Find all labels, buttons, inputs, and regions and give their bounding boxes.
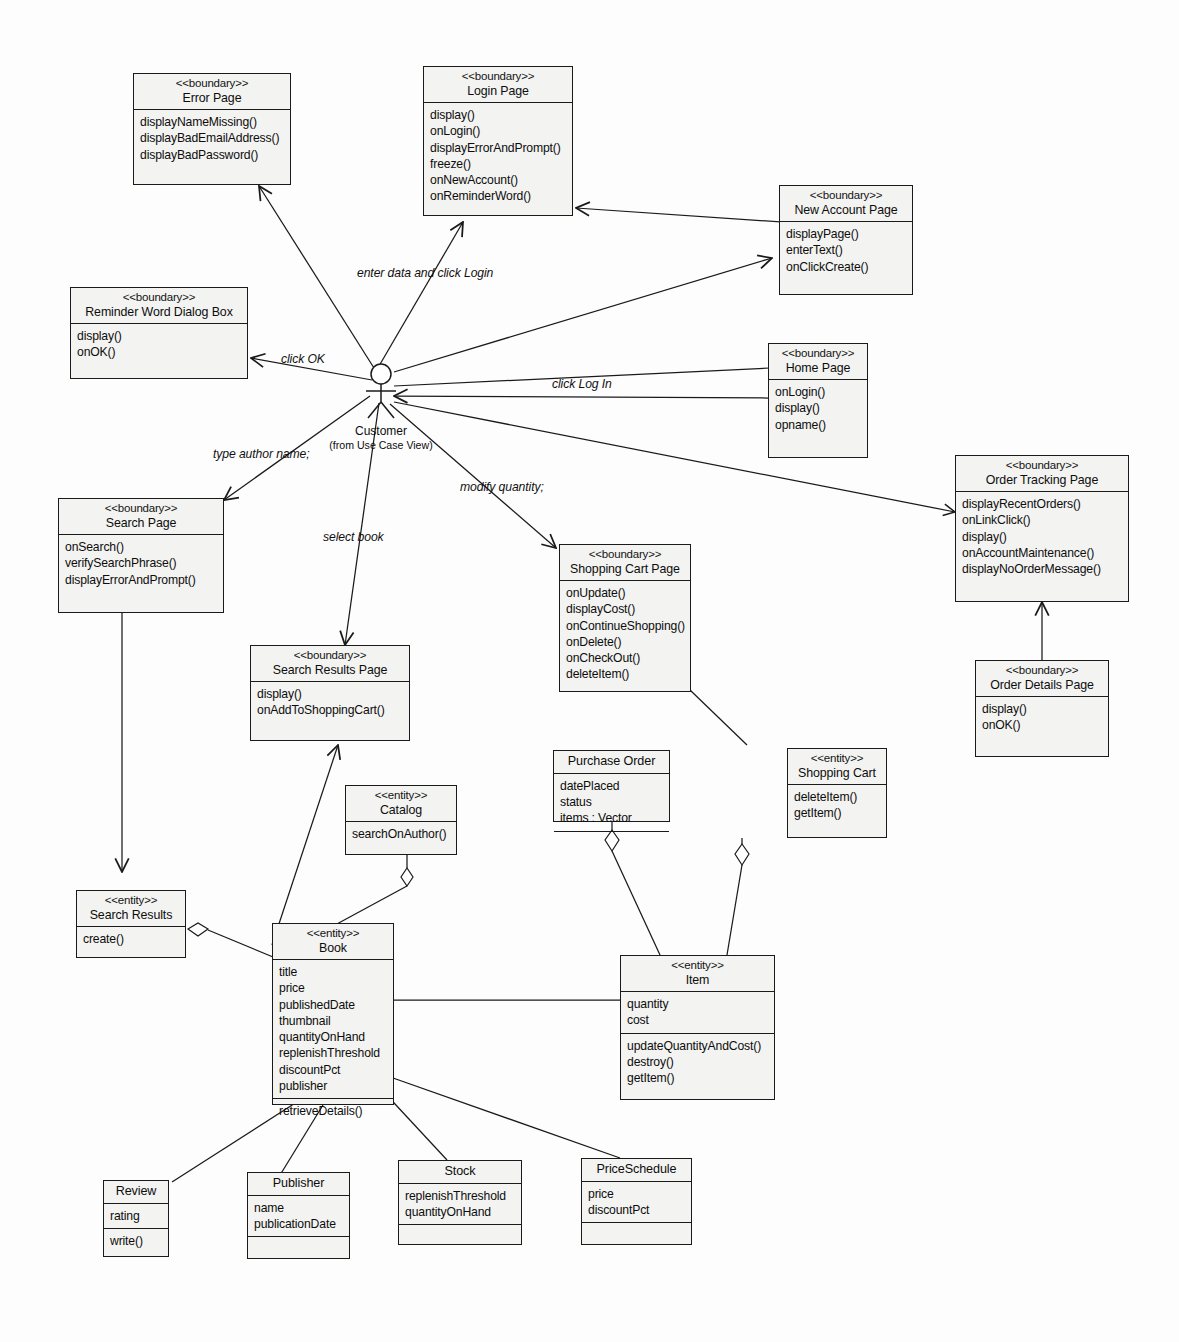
stereotype-label: <<boundary>> — [564, 548, 686, 562]
attribute: publicationDate — [254, 1216, 344, 1232]
operation: display() — [77, 328, 242, 344]
class-book[interactable]: <<entity>> Book title price publishedDat… — [272, 923, 394, 1105]
class-item[interactable]: <<entity>> Item quantity cost updateQuan… — [620, 955, 775, 1100]
class-header: <<entity>> Shopping Cart — [788, 749, 886, 785]
attribute: discountPct — [279, 1062, 388, 1078]
operations-compartment: onUpdate() displayCost() onContinueShopp… — [560, 581, 690, 691]
class-header: <<boundary>> Error Page — [134, 74, 290, 110]
operations-compartment — [582, 1223, 691, 1245]
class-search-results-page[interactable]: <<boundary>> Search Results Page display… — [250, 645, 410, 741]
operation: retrieveDetails() — [279, 1103, 388, 1119]
class-header: <<boundary>> New Account Page — [780, 186, 912, 222]
edge-label-enter-login: enter data and click Login — [357, 266, 493, 280]
stereotype-label: <<boundary>> — [138, 77, 286, 91]
class-login-page[interactable]: <<boundary>> Login Page display() onLogi… — [423, 66, 573, 216]
class-new-account-page[interactable]: <<boundary>> New Account Page displayPag… — [779, 185, 913, 295]
class-name: Shopping Cart Page — [564, 562, 686, 577]
operation: onLogin() — [775, 384, 862, 400]
class-publisher[interactable]: Publisher name publicationDate — [247, 1172, 350, 1259]
operations-compartment — [554, 832, 669, 854]
operation: onUpdate() — [566, 585, 685, 601]
class-name: Search Page — [63, 516, 219, 531]
class-price-schedule[interactable]: PriceSchedule price discountPct — [581, 1158, 692, 1245]
class-review[interactable]: Review rating write() — [103, 1180, 169, 1257]
class-stock[interactable]: Stock replenishThreshold quantityOnHand — [398, 1160, 522, 1245]
operations-compartment: display() onOK() — [71, 324, 247, 378]
operations-compartment: display() onAddToShoppingCart() — [251, 682, 409, 740]
stereotype-label: <<boundary>> — [773, 347, 863, 361]
operation: displayErrorAndPrompt() — [430, 140, 567, 156]
attributes-compartment: rating — [104, 1204, 168, 1229]
operations-compartment: onLogin() display() opname() — [769, 380, 867, 457]
attributes-compartment: name publicationDate — [248, 1196, 349, 1237]
operations-compartment: updateQuantityAndCost() destroy() getIte… — [621, 1034, 774, 1099]
operation: onSearch() — [65, 539, 218, 555]
class-name: New Account Page — [784, 203, 908, 218]
edge-label-modify-quantity: modify quantity; — [460, 480, 544, 494]
operation: opname() — [775, 417, 862, 433]
attribute: status — [560, 794, 664, 810]
operation: onClickCreate() — [786, 259, 907, 275]
uml-class-diagram-canvas: Customer (from Use Case View) enter data… — [0, 0, 1179, 1342]
operation: displayPage() — [786, 226, 907, 242]
operation: onContinueShopping() — [566, 618, 685, 634]
stereotype-label: <<entity>> — [625, 959, 770, 973]
attribute: discountPct — [588, 1202, 686, 1218]
operation: searchOnAuthor() — [352, 826, 451, 842]
class-search-results[interactable]: <<entity>> Search Results create() — [76, 890, 186, 958]
class-name: Order Tracking Page — [960, 473, 1124, 488]
customer-actor-icon — [358, 362, 404, 420]
class-shopping-cart-page[interactable]: <<boundary>> Shopping Cart Page onUpdate… — [559, 544, 691, 692]
operation: onLinkClick() — [962, 512, 1123, 528]
class-header: PriceSchedule — [582, 1159, 691, 1182]
class-shopping-cart[interactable]: <<entity>> Shopping Cart deleteItem() ge… — [787, 748, 887, 838]
attributes-compartment: datePlaced status items : Vector — [554, 774, 669, 832]
class-home-page[interactable]: <<boundary>> Home Page onLogin() display… — [768, 343, 868, 458]
attribute: publisher — [279, 1078, 388, 1094]
stereotype-label: <<entity>> — [277, 927, 389, 941]
class-reminder-word-dialog-box[interactable]: <<boundary>> Reminder Word Dialog Box di… — [70, 287, 248, 379]
attribute: thumbnail — [279, 1013, 388, 1029]
operation: onAccountMaintenance() — [962, 545, 1123, 561]
operation: displayErrorAndPrompt() — [65, 572, 218, 588]
class-header: <<entity>> Item — [621, 956, 774, 992]
operation: verifySearchPhrase() — [65, 555, 218, 571]
attribute: name — [254, 1200, 344, 1216]
operations-compartment: onSearch() verifySearchPhrase() displayE… — [59, 535, 223, 612]
edge-label-select-book: select book — [323, 530, 384, 544]
class-name: Login Page — [428, 84, 568, 99]
class-order-details-page[interactable]: <<boundary>> Order Details Page display(… — [975, 660, 1109, 757]
class-header: <<boundary>> Order Details Page — [976, 661, 1108, 697]
operation: displayRecentOrders() — [962, 496, 1123, 512]
class-name: Reminder Word Dialog Box — [75, 305, 243, 320]
class-header: <<boundary>> Order Tracking Page — [956, 456, 1128, 492]
attribute: cost — [627, 1012, 769, 1028]
class-catalog[interactable]: <<entity>> Catalog searchOnAuthor() — [345, 785, 457, 855]
class-search-page[interactable]: <<boundary>> Search Page onSearch() veri… — [58, 498, 224, 613]
operation: display() — [257, 686, 404, 702]
class-header: <<entity>> Catalog — [346, 786, 456, 822]
class-order-tracking-page[interactable]: <<boundary>> Order Tracking Page display… — [955, 455, 1129, 602]
class-name: Book — [277, 941, 389, 956]
class-purchase-order[interactable]: Purchase Order datePlaced status items :… — [553, 750, 670, 822]
class-header: <<entity>> Book — [273, 924, 393, 960]
class-error-page[interactable]: <<boundary>> Error Page displayNameMissi… — [133, 73, 291, 185]
operations-compartment: displayNameMissing() displayBadEmailAddr… — [134, 110, 290, 184]
class-header: <<boundary>> Login Page — [424, 67, 572, 103]
class-name: Review — [108, 1184, 164, 1199]
attribute: replenishThreshold — [405, 1188, 516, 1204]
operation: display() — [430, 107, 567, 123]
class-header: Purchase Order — [554, 751, 669, 774]
attributes-compartment: title price publishedDate thumbnail quan… — [273, 960, 393, 1099]
operation: display() — [962, 529, 1123, 545]
operation: display() — [982, 701, 1103, 717]
stereotype-label: <<entity>> — [81, 894, 181, 908]
operation: onCheckOut() — [566, 650, 685, 666]
operation: deleteItem() — [566, 666, 685, 682]
edge-label-type-author-name: type author name; — [213, 447, 310, 461]
attribute: publishedDate — [279, 997, 388, 1013]
operation: onDelete() — [566, 634, 685, 650]
operation: enterText() — [786, 242, 907, 258]
operation: updateQuantityAndCost() — [627, 1038, 769, 1054]
stereotype-label: <<boundary>> — [960, 459, 1124, 473]
